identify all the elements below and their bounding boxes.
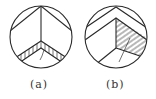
diagram-canvas [0,0,156,99]
panel-b [85,6,150,68]
hatched-band [12,41,70,65]
panel-a [10,6,72,68]
crack-line [40,50,44,60]
label-a: (a) [30,78,48,91]
label-b: (b) [106,78,125,91]
